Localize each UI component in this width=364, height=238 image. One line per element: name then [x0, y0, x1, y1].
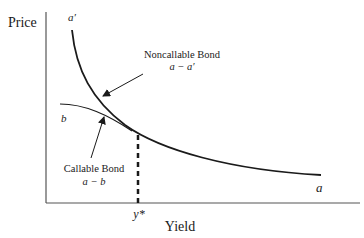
- callable-curve: [60, 104, 132, 131]
- callable-arrow: [91, 117, 104, 158]
- y-star-label: y*: [132, 207, 144, 221]
- callable-segment-label: a − b: [83, 176, 106, 187]
- price-yield-diagram: Price Yield y* a′ a b Noncallable Bond a…: [0, 0, 364, 238]
- noncallable-arrow: [103, 74, 143, 96]
- b-label: b: [61, 112, 67, 124]
- y-axis-label: Price: [8, 15, 37, 30]
- a-prime-label: a′: [68, 11, 77, 23]
- a-label: a: [316, 180, 323, 195]
- x-axis-label: Yield: [165, 219, 195, 234]
- noncallable-bond-label: Noncallable Bond: [144, 49, 221, 60]
- noncallable-segment-label: a − a′: [169, 61, 195, 72]
- callable-bond-label: Callable Bond: [64, 163, 125, 174]
